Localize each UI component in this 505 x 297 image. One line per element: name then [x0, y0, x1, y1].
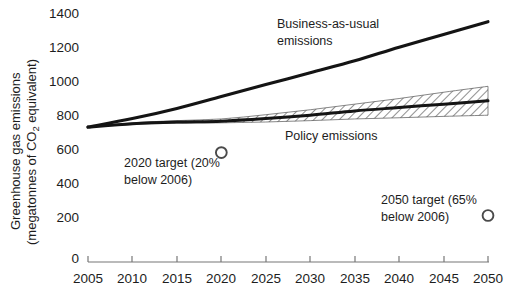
x-tick-label-2040: 2040: [384, 271, 414, 286]
bau-series-label-line1: Business-as-usual: [277, 17, 379, 31]
x-tick-label-2005: 2005: [73, 271, 103, 286]
x-tick-label-2020: 2020: [206, 271, 236, 286]
y-tick-400: 400: [56, 176, 79, 191]
target-2050-label-line2: below 2006): [381, 210, 449, 224]
y-axis-title-line2: (megatonnes of CO2 equivalent): [24, 59, 41, 245]
x-tick-label-2010: 2010: [117, 271, 147, 286]
y-axis-tick-labels: 1400 1200 1000 800 600 400 200 0: [49, 6, 79, 266]
y-axis-title-line2-pre: (megatonnes of CO: [24, 132, 39, 245]
x-tick-label-2045: 2045: [429, 271, 459, 286]
bau-series-label: Business-as-usual emissions: [277, 17, 379, 48]
policy-series-label: Policy emissions: [285, 129, 377, 143]
x-axis: [88, 256, 489, 262]
target-2050-label-line1: 2050 target (65%: [381, 193, 477, 207]
x-tick-label-2015: 2015: [162, 271, 192, 286]
target-2020-label-line1: 2020 target (20%: [124, 156, 220, 170]
y-tick-1200: 1200: [49, 40, 79, 55]
x-axis-tick-labels: 2005 2010 2015 2020 2025 2030 2035 2040 …: [73, 271, 503, 286]
emissions-projection-chart: 1400 1200 1000 800 600 400 200 0 Greenho…: [0, 0, 505, 297]
target-marker-2050-circle: [483, 210, 494, 221]
x-tick-label-2030: 2030: [295, 271, 325, 286]
y-axis-title-line2-post: equivalent): [24, 59, 39, 126]
y-tick-0: 0: [71, 251, 79, 266]
x-tick-label-2025: 2025: [251, 271, 281, 286]
y-axis-title: Greenhouse gas emissions (megatonnes of …: [8, 59, 41, 245]
y-tick-200: 200: [56, 210, 79, 225]
x-tick-label-2035: 2035: [340, 271, 370, 286]
y-tick-600: 600: [56, 142, 79, 157]
y-tick-1400: 1400: [49, 6, 79, 21]
y-tick-800: 800: [56, 108, 79, 123]
y-axis-title-line1: Greenhouse gas emissions: [8, 72, 23, 230]
target-2020-label-line2: below 2006): [124, 173, 192, 187]
x-tick-label-2050: 2050: [473, 271, 503, 286]
target-marker-2020: 2020 target (20% below 2006): [124, 147, 227, 187]
y-tick-1000: 1000: [49, 74, 79, 89]
target-marker-2050: 2050 target (65% below 2006): [381, 193, 493, 224]
bau-series-label-line2: emissions: [277, 34, 333, 48]
